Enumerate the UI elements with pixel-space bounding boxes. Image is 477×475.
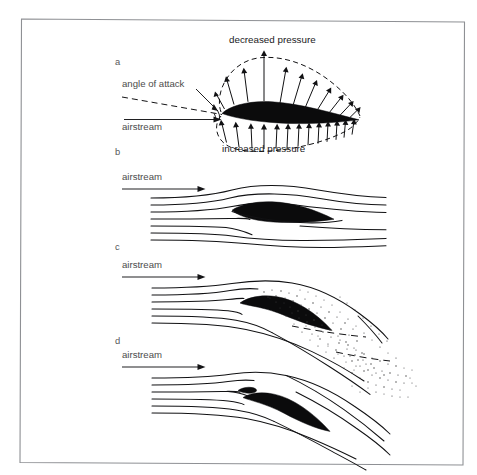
panel-d-letter: d — [115, 335, 120, 346]
panel-c-airstream-label: airstream — [122, 259, 162, 270]
panel-a-letter: a — [115, 56, 121, 67]
panel-b-airstream-label: airstream — [122, 171, 162, 182]
angle-of-attack-label: angle of attack — [122, 78, 185, 89]
panel-a-airstream-label: airstream — [122, 121, 162, 132]
airfoil-figure: a decreased pressure increased pressure … — [0, 0, 477, 475]
panel-c-letter: c — [115, 241, 120, 252]
decreased-pressure-label: decreased pressure — [229, 34, 316, 45]
panel-d-airstream-label: airstream — [122, 349, 162, 360]
figure-canvas: a decreased pressure increased pressure … — [0, 0, 477, 475]
figure-background — [0, 0, 477, 475]
panel-b-letter: b — [115, 146, 120, 157]
